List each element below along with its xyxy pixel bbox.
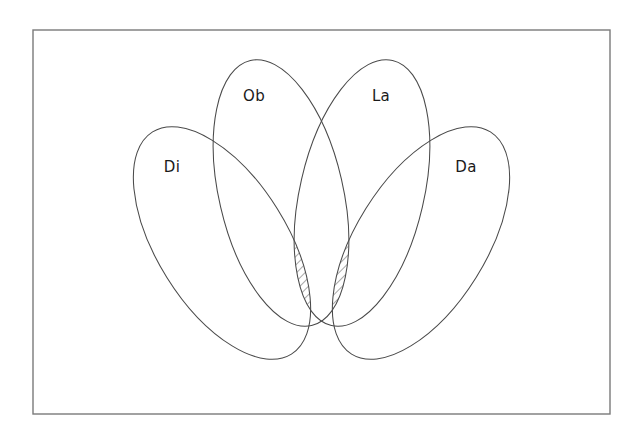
set-label-ob: Ob <box>243 87 265 105</box>
set-label-di: Di <box>164 158 180 176</box>
venn-diagram-page: Di Ob La Da <box>0 0 641 438</box>
set-label-la: La <box>372 87 390 105</box>
venn-diagram-canvas: Di Ob La Da <box>0 0 641 438</box>
set-label-da: Da <box>455 158 476 176</box>
canvas-background <box>0 0 641 438</box>
